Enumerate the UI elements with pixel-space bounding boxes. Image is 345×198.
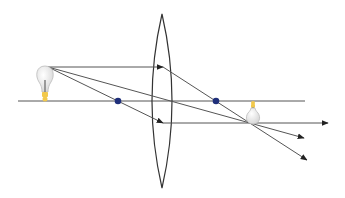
parallel-ray-refracted — [163, 67, 307, 160]
center-ray — [48, 67, 304, 138]
object-bulb-icon — [37, 66, 53, 102]
image-bulb-icon — [246, 101, 259, 124]
left-focal-point — [115, 98, 122, 105]
right-focal-point — [213, 98, 220, 105]
ray-diagram-canvas — [0, 0, 345, 198]
focal-ray-incident — [48, 67, 163, 123]
ray-diagram — [0, 0, 345, 198]
